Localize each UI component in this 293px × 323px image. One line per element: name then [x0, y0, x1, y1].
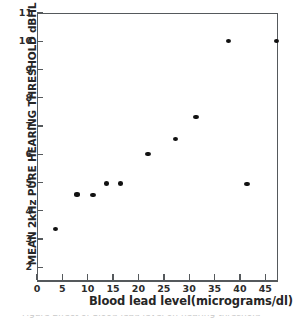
y-axis-tick — [37, 69, 43, 70]
data-point — [104, 181, 109, 185]
x-axis-tick-label: 35 — [203, 284, 227, 294]
data-point — [74, 192, 79, 196]
y-axis-tick-label: 4 — [6, 206, 32, 216]
y-axis-tick — [37, 12, 43, 13]
x-axis-tick — [87, 274, 88, 280]
x-axis-tick — [138, 274, 139, 280]
x-axis-tick-label: 45 — [253, 284, 277, 294]
y-axis-tick-label: 10 — [6, 36, 32, 46]
y-axis-tick — [37, 41, 43, 42]
x-axis-tick-label: 25 — [152, 284, 176, 294]
x-axis-tick-label: 40 — [228, 284, 252, 294]
data-point — [90, 193, 95, 197]
y-axis-tick — [37, 238, 43, 239]
data-point — [244, 182, 249, 186]
y-axis-tick-label: 2 — [6, 262, 32, 272]
clipped-caption: Figure Effect of blood lead level on hea… — [22, 315, 280, 323]
x-axis-tick-label: 15 — [101, 284, 125, 294]
x-axis-tick — [112, 274, 113, 280]
x-axis-tick — [239, 274, 240, 280]
scatter-plot-figure: MEAN 2kHz PURE HEARING THRESHOLD dBHL 23… — [0, 0, 293, 323]
y-axis-tick-label: 7 — [6, 121, 32, 131]
x-axis-tick — [189, 274, 190, 280]
y-axis-tick — [37, 210, 43, 211]
y-axis-tick-label: 6 — [6, 149, 32, 159]
plot-area — [37, 13, 278, 281]
x-axis-tick — [36, 274, 37, 280]
x-axis-tick-label: 30 — [177, 284, 201, 294]
y-axis-tick — [37, 182, 43, 183]
x-axis-tick-label: 10 — [76, 284, 100, 294]
data-point — [193, 115, 198, 119]
x-axis-tick — [265, 274, 266, 280]
data-point — [173, 137, 178, 141]
data-point — [118, 181, 123, 185]
x-axis-tick — [163, 274, 164, 280]
y-axis-tick — [37, 125, 43, 126]
y-axis-tick-label: 8 — [6, 93, 32, 103]
y-axis-tick — [37, 267, 43, 268]
x-axis-tick-label: 0 — [25, 284, 49, 294]
clipped-caption-text: Figure Effect of blood lead level on hea… — [22, 315, 280, 318]
y-axis-tick-label: 9 — [6, 65, 32, 75]
data-point — [274, 39, 279, 43]
x-axis-tick-label: 20 — [126, 284, 150, 294]
y-axis-tick-label: 3 — [6, 234, 32, 244]
y-axis-tick-label: 11 — [6, 8, 32, 18]
y-axis-tick — [37, 154, 43, 155]
x-axis-tick-label: 5 — [50, 284, 74, 294]
x-axis-spine — [37, 280, 278, 282]
x-axis-tick — [62, 274, 63, 280]
x-axis-title: Blood lead level(micrograms/dl) — [60, 294, 293, 308]
y-axis-tick-label: 5 — [6, 178, 32, 188]
y-axis-tick — [37, 97, 43, 98]
x-axis-tick — [214, 274, 215, 280]
